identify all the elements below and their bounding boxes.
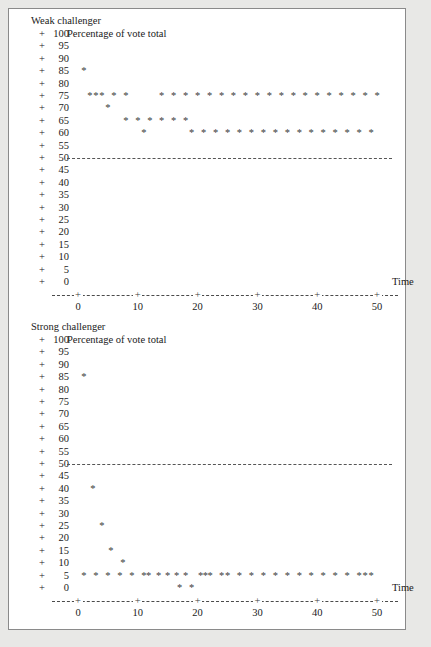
y-axis-tick-weak-20: 20+ bbox=[9, 226, 69, 238]
y-axis-plus-glyph: + bbox=[39, 508, 45, 520]
data-point: * bbox=[350, 90, 357, 102]
y-tick-label: 0 bbox=[43, 582, 69, 594]
y-axis-plus-glyph: + bbox=[39, 264, 45, 276]
plot-area-weak: 100+95+90+85+80+75+70+65+60+55+50+45+40+… bbox=[9, 15, 405, 315]
y-axis-plus-glyph: + bbox=[39, 483, 45, 495]
y-axis-tick-strong-25: 25+ bbox=[9, 520, 69, 532]
y-axis-plus-glyph: + bbox=[39, 239, 45, 251]
y-axis-tick-strong-40: 40+ bbox=[9, 483, 69, 495]
x-axis-tick-label-strong-20: 20 bbox=[186, 607, 210, 619]
data-point: * bbox=[296, 127, 303, 139]
data-point: * bbox=[98, 520, 105, 532]
x-axis-tick-label-weak-40: 40 bbox=[305, 301, 329, 313]
data-point: * bbox=[158, 90, 165, 102]
y-tick-label: 65 bbox=[43, 115, 69, 127]
y-axis-tick-weak-65: 65+ bbox=[9, 115, 69, 127]
y-tick-label: 55 bbox=[43, 446, 69, 458]
x-axis-tick-glyph-strong-30: + bbox=[253, 595, 262, 607]
y-axis-tick-weak-60: 60+ bbox=[9, 127, 69, 139]
y-axis-tick-weak-40: 40+ bbox=[9, 177, 69, 189]
data-point: * bbox=[368, 127, 375, 139]
y-axis-tick-weak-50: 50+ bbox=[9, 152, 69, 164]
y-axis-tick-strong-90: 90+ bbox=[9, 359, 69, 371]
data-point: * bbox=[254, 90, 261, 102]
x-axis-tick-label-strong-10: 10 bbox=[126, 607, 150, 619]
y-tick-label: 5 bbox=[43, 570, 69, 582]
data-point: * bbox=[92, 570, 99, 582]
y-axis-plus-glyph: + bbox=[39, 520, 45, 532]
data-point: * bbox=[80, 65, 87, 77]
y-axis-tick-strong-5: 5+ bbox=[9, 570, 69, 582]
y-tick-label: 25 bbox=[43, 520, 69, 532]
data-point: * bbox=[308, 570, 315, 582]
data-point: * bbox=[164, 570, 171, 582]
y-tick-label: 75 bbox=[43, 90, 69, 102]
data-point: * bbox=[89, 483, 96, 495]
data-point: * bbox=[308, 127, 315, 139]
y-axis-tick-strong-80: 80+ bbox=[9, 384, 69, 396]
data-point: * bbox=[200, 127, 207, 139]
data-point: * bbox=[362, 90, 369, 102]
y-tick-label: 60 bbox=[43, 127, 69, 139]
x-axis-tick-glyph-strong-50: + bbox=[373, 595, 382, 607]
data-point: * bbox=[212, 127, 219, 139]
data-point: * bbox=[260, 570, 267, 582]
data-point: * bbox=[170, 90, 177, 102]
y-axis-plus-glyph: + bbox=[39, 421, 45, 433]
y-axis-plus-glyph: + bbox=[39, 127, 45, 139]
y-axis-plus-glyph: + bbox=[39, 334, 45, 346]
y-tick-label: 25 bbox=[43, 214, 69, 226]
y-tick-label: 5 bbox=[43, 264, 69, 276]
data-point: * bbox=[230, 90, 237, 102]
y-tick-label: 10 bbox=[43, 251, 69, 263]
data-point: * bbox=[236, 127, 243, 139]
y-axis-plus-glyph: + bbox=[39, 90, 45, 102]
y-axis-plus-glyph: + bbox=[39, 115, 45, 127]
data-point: * bbox=[260, 127, 267, 139]
y-axis-plus-glyph: + bbox=[39, 53, 45, 65]
y-axis-tick-strong-95: 95+ bbox=[9, 346, 69, 358]
y-axis-plus-glyph: + bbox=[39, 433, 45, 445]
data-point: * bbox=[272, 570, 279, 582]
plot-area-strong: 100+95+90+85+80+75+70+65+60+55+50+45+40+… bbox=[9, 321, 405, 621]
y-axis-plus-glyph: + bbox=[39, 140, 45, 152]
data-point: * bbox=[80, 570, 87, 582]
y-tick-label: 55 bbox=[43, 140, 69, 152]
y-axis-tick-weak-90: 90+ bbox=[9, 53, 69, 65]
y-tick-label: 15 bbox=[43, 545, 69, 557]
y-axis-plus-glyph: + bbox=[39, 226, 45, 238]
y-axis-tick-strong-70: 70+ bbox=[9, 408, 69, 420]
data-point: * bbox=[170, 115, 177, 127]
x-axis-tick-label-weak-20: 20 bbox=[186, 301, 210, 313]
x-axis-tick-glyph-strong-0: + bbox=[74, 595, 83, 607]
y-tick-label: 95 bbox=[43, 40, 69, 52]
data-point: * bbox=[140, 127, 147, 139]
y-axis-tick-strong-20: 20+ bbox=[9, 532, 69, 544]
y-axis-plus-glyph: + bbox=[39, 359, 45, 371]
data-point: * bbox=[155, 570, 162, 582]
data-point: * bbox=[344, 127, 351, 139]
data-point: * bbox=[107, 545, 114, 557]
y-axis-tick-strong-30: 30+ bbox=[9, 508, 69, 520]
y-axis-tick-weak-35: 35+ bbox=[9, 189, 69, 201]
x-axis-tick-glyph-weak-50: + bbox=[373, 289, 382, 301]
y-tick-label: 60 bbox=[43, 433, 69, 445]
y-axis-tick-weak-80: 80+ bbox=[9, 78, 69, 90]
y-axis-plus-glyph: + bbox=[39, 346, 45, 358]
y-tick-label: 10 bbox=[43, 557, 69, 569]
y-tick-label: 35 bbox=[43, 495, 69, 507]
data-point: * bbox=[236, 570, 243, 582]
y-axis-plus-glyph: + bbox=[39, 28, 45, 40]
y-tick-label: 40 bbox=[43, 483, 69, 495]
y-axis-plus-glyph: + bbox=[39, 570, 45, 582]
figure-frame: Weak challenger Percentage of vote total… bbox=[8, 8, 406, 630]
y-axis-plus-glyph: + bbox=[39, 532, 45, 544]
y-axis-tick-strong-0: 0+ bbox=[9, 582, 69, 594]
data-point: * bbox=[80, 371, 87, 383]
chart-panel-strong-challenger: Strong challenger Percentage of vote tot… bbox=[9, 321, 405, 621]
y-axis-plus-glyph: + bbox=[39, 545, 45, 557]
y-tick-label: 75 bbox=[43, 396, 69, 408]
data-point: * bbox=[290, 90, 297, 102]
y-axis-tick-weak-0: 0+ bbox=[9, 276, 69, 288]
data-point: * bbox=[224, 570, 231, 582]
